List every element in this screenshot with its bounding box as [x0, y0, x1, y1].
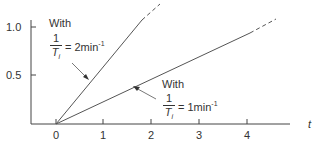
arrow-1min: [136, 88, 156, 99]
annotation-1min-fraction: 1 Ti: [163, 93, 175, 120]
annotation-2min-value: = 2min-1: [65, 40, 105, 53]
x-tick-label-0: 0: [53, 130, 59, 141]
y-tick-label-1: 1.0: [6, 22, 21, 33]
annotation-1min-with: With: [162, 79, 184, 90]
annotation-1min-value: = 1min-1: [178, 100, 218, 113]
annotation-2min-fraction: 1 Ti: [50, 33, 62, 60]
x-tick-label-1: 1: [100, 130, 106, 141]
x-axis-label: t: [308, 119, 311, 130]
y-tick-label-05: 0.5: [6, 70, 21, 81]
series-2min-solid: [56, 20, 142, 124]
fraction-denominator: Ti: [163, 107, 175, 120]
x-tick-label-3: 3: [196, 130, 202, 141]
chart-canvas: [0, 0, 316, 146]
series-2min-dashed: [142, 4, 160, 20]
series-1min-dashed: [250, 19, 276, 33]
arrowhead-1min-icon: [133, 86, 140, 91]
fraction-numerator: 1: [50, 33, 62, 44]
x-tick-label-4: 4: [244, 130, 250, 141]
fraction-numerator: 1: [163, 93, 175, 104]
annotation-2min-with: With: [49, 18, 71, 29]
x-tick-label-2: 2: [148, 130, 154, 141]
fraction-denominator: Ti: [50, 47, 62, 60]
